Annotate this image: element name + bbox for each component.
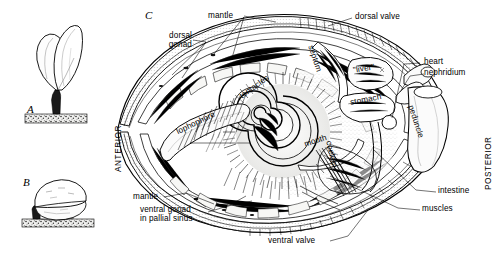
- panel-b-letter: B: [23, 176, 30, 188]
- label-mantle-top: mantle: [208, 11, 233, 20]
- label-anterior: ANTERIOR: [114, 125, 123, 172]
- label-intestine: intestine: [438, 186, 469, 195]
- label-posterior: POSTERIOR: [484, 136, 493, 190]
- label-heart: heart: [424, 57, 443, 66]
- label-nephridium: nephridium: [424, 68, 466, 77]
- label-dorsal-valve: dorsal valve: [355, 12, 400, 21]
- label-ventral-gonad: ventral gonad in pallial sinus: [140, 205, 193, 224]
- label-dorsal-gonad-line2: gonad: [169, 40, 192, 49]
- figure-canvas: A B: [0, 0, 498, 259]
- panel-b-drawing: [22, 180, 94, 227]
- label-c-panel: C: [145, 11, 152, 21]
- panel-a-letter: A: [26, 103, 34, 115]
- panel-c-letter: C: [145, 9, 152, 21]
- label-ventral-valve: ventral valve: [268, 236, 315, 245]
- label-dorsal-gonad-line1: dorsal: [169, 31, 192, 40]
- label-dorsal-gonad: dorsal gonad: [140, 31, 192, 50]
- label-ventral-gonad-line2: in pallial sinus: [140, 214, 193, 223]
- label-muscles: muscles: [422, 204, 453, 213]
- label-ventral-gonad-line1: ventral gonad: [140, 205, 191, 214]
- label-mantle-bottom: mantle: [133, 192, 158, 201]
- panel-a-drawing: [25, 25, 87, 123]
